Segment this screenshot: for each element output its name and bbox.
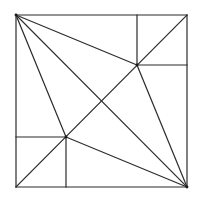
segment-p2-to-br xyxy=(66,137,187,187)
geometric-diagram xyxy=(0,0,197,197)
diagram-canvas xyxy=(0,0,197,197)
vertex-p2 xyxy=(65,136,68,139)
segment-tl-to-p1 xyxy=(16,15,137,65)
segment-p1-to-br xyxy=(137,65,187,187)
vertex-br xyxy=(186,186,189,189)
vertex-tl xyxy=(15,14,18,17)
vertex-p1 xyxy=(136,64,139,67)
segment-tl-to-p2 xyxy=(16,15,66,137)
